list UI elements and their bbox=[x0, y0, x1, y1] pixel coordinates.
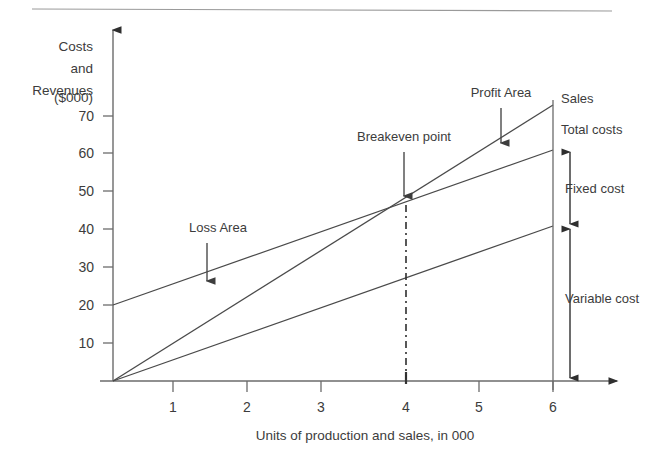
x-tick-label-2: 2 bbox=[243, 399, 251, 415]
series-line-variable-cost bbox=[113, 226, 553, 381]
x-tick-label-4: 4 bbox=[402, 399, 410, 415]
series-line-sales bbox=[113, 105, 553, 381]
y-axis-ticks bbox=[103, 116, 113, 343]
breakeven-chart: 70 60 50 40 30 20 10 1 2 3 4 5 6 Costs bbox=[0, 0, 660, 461]
x-axis-tick-labels: 1 2 3 4 5 6 bbox=[169, 399, 557, 415]
y-tick-label-40: 40 bbox=[78, 221, 94, 237]
x-tick-label-3: 3 bbox=[317, 399, 325, 415]
y-axis-title-line-1: Costs bbox=[58, 39, 93, 54]
y-tick-label-70: 70 bbox=[78, 108, 94, 124]
annotation-label-breakeven-point: Breakeven point bbox=[357, 129, 451, 144]
y-tick-label-30: 30 bbox=[78, 259, 94, 275]
y-axis-title-units: ($000) bbox=[54, 90, 93, 105]
x-tick-label-5: 5 bbox=[475, 399, 483, 415]
series-label-sales: Sales bbox=[561, 91, 594, 106]
x-axis-ticks bbox=[173, 372, 553, 392]
top-divider-rule bbox=[32, 9, 612, 11]
annotation-label-loss-area: Loss Area bbox=[189, 220, 248, 235]
series-label-total-costs: Total costs bbox=[561, 122, 623, 137]
y-tick-label-20: 20 bbox=[78, 297, 94, 313]
y-axis-title-line-2: and bbox=[70, 61, 93, 76]
dimension-label-fixed-cost: Fixed cost bbox=[565, 181, 625, 196]
chart-canvas: 70 60 50 40 30 20 10 1 2 3 4 5 6 Costs bbox=[0, 0, 660, 461]
y-tick-label-60: 60 bbox=[78, 145, 94, 161]
y-tick-label-50: 50 bbox=[78, 183, 94, 199]
x-axis-title: Units of production and sales, in 000 bbox=[256, 428, 474, 443]
series-line-total-costs bbox=[113, 150, 553, 305]
x-tick-label-6: 6 bbox=[549, 399, 557, 415]
dimension-label-variable-cost: Variable cost bbox=[565, 291, 640, 306]
y-tick-label-10: 10 bbox=[78, 335, 94, 351]
x-tick-label-1: 1 bbox=[169, 399, 177, 415]
annotation-label-profit-area: Profit Area bbox=[471, 85, 532, 100]
y-axis-tick-labels: 70 60 50 40 30 20 10 bbox=[78, 108, 94, 351]
